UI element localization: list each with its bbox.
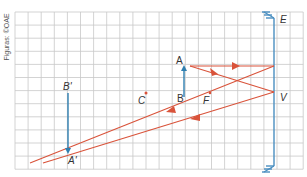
grid xyxy=(15,12,303,169)
image-arrow-AB-prime xyxy=(65,93,71,154)
label-C: C xyxy=(138,95,146,106)
label-E: E xyxy=(280,14,287,25)
label-V: V xyxy=(280,92,288,103)
label-A: A xyxy=(176,55,183,66)
label-F: F xyxy=(203,95,210,106)
label-B-prime: B' xyxy=(63,81,73,92)
ray-arrowheads xyxy=(166,62,240,121)
focus-point-F xyxy=(209,92,212,95)
label-B: B xyxy=(177,93,184,104)
concave-mirror-diagram: A B B' A' C F V E xyxy=(0,0,307,177)
arrowhead-right-icon xyxy=(232,62,240,70)
label-A-prime: A' xyxy=(67,155,78,166)
